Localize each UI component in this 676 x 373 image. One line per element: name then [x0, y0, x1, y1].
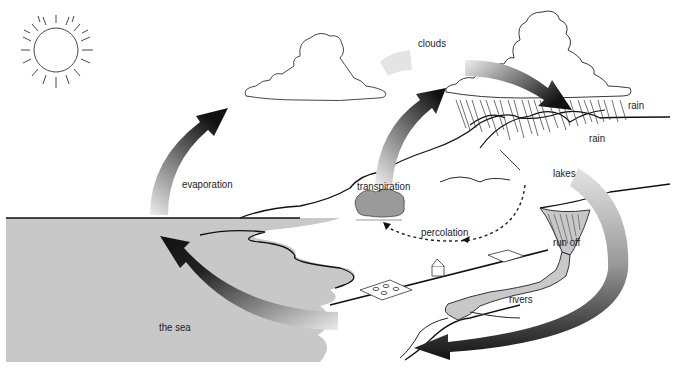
- label-rain-top: rain: [628, 99, 644, 111]
- label-clouds: clouds: [418, 37, 446, 49]
- cloud-left: [245, 33, 386, 100]
- sun-icon: [21, 15, 93, 88]
- sea: [6, 218, 355, 362]
- label-rain-lower: rain: [589, 132, 605, 144]
- label-rivers: rivers: [509, 293, 533, 305]
- label-the-sea: the sea: [159, 321, 191, 333]
- evaporation-arrow: [150, 108, 228, 215]
- label-run-off: run off: [553, 236, 580, 248]
- label-evaporation: evaporation: [182, 178, 233, 190]
- label-transpiration: transpiration: [357, 180, 410, 192]
- label-lakes: lakes: [553, 167, 576, 179]
- transpiration-arrow: [375, 88, 446, 185]
- house-icon: [432, 259, 444, 276]
- water-cycle-diagram: [0, 0, 676, 373]
- trees-icon: [355, 189, 404, 220]
- runoff-arrow: [414, 168, 628, 360]
- label-percolation: percolation: [421, 226, 468, 238]
